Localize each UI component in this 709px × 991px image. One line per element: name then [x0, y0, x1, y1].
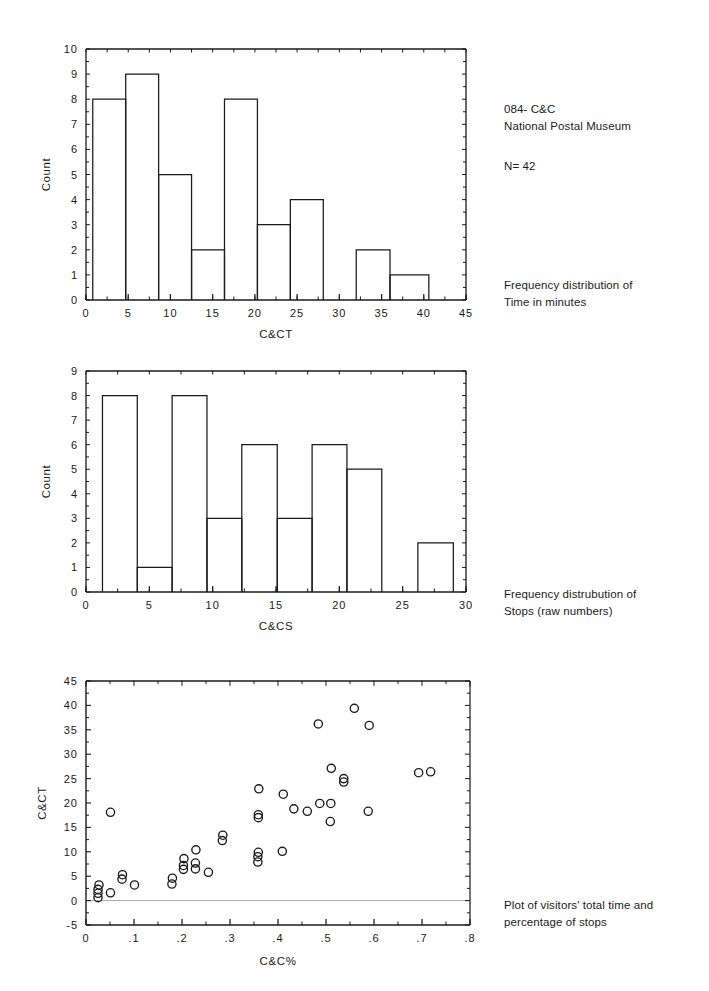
- x-tick-label: 45: [459, 307, 473, 319]
- plot-frame: [86, 49, 466, 300]
- y-tick-label: 10: [64, 846, 78, 858]
- plot-frame: [86, 371, 466, 592]
- y-tick-label: 3: [71, 512, 78, 524]
- chart-scatter-time-vs-stops: 0.1.2.3.4.5.6.7.8-5051015202530354045C&C…: [0, 660, 500, 990]
- x-tick-label: 10: [206, 599, 220, 611]
- y-tick-label: 9: [71, 68, 78, 80]
- x-tick-label: 30: [459, 599, 473, 611]
- scatter-point: [255, 785, 263, 793]
- histogram-bar: [390, 275, 429, 300]
- y-tick-label: 1: [71, 561, 78, 573]
- y-tick-label: 10: [64, 43, 78, 55]
- y-tick-label: 9: [71, 365, 78, 377]
- x-tick-label: 15: [269, 599, 283, 611]
- histogram-bar: [418, 543, 453, 592]
- x-tick-label: 5: [146, 599, 153, 611]
- scatter-point: [326, 817, 334, 825]
- scatter-point: [327, 799, 335, 807]
- histogram-bar: [290, 200, 323, 300]
- caption-histogram-stops: Frequency distrubution of Stops (raw num…: [504, 586, 636, 619]
- y-tick-label: 5: [71, 463, 78, 475]
- y-tick-label: 2: [71, 244, 78, 256]
- x-tick-label: .2: [176, 932, 187, 944]
- scatter-point: [314, 720, 322, 728]
- bars-group: [102, 396, 453, 592]
- histogram-stops-svg: 0510152025300123456789C&CSCount: [0, 352, 500, 652]
- y-tick-label: 25: [64, 773, 78, 785]
- x-tick-label: 15: [206, 307, 220, 319]
- histogram-bar: [159, 175, 192, 301]
- chart-histogram-stops: 0510152025300123456789C&CSCount: [0, 352, 500, 652]
- x-tick-label: .4: [272, 932, 283, 944]
- scatter-point: [278, 847, 286, 855]
- y-tick-label: 0: [71, 294, 78, 306]
- x-tick-label: 0: [82, 307, 89, 319]
- y-tick-label: 4: [71, 194, 78, 206]
- x-tick-label: 20: [332, 599, 346, 611]
- y-tick-label: 45: [64, 675, 78, 687]
- y-tick-label: 7: [71, 118, 78, 130]
- x-tick-label: 25: [396, 599, 410, 611]
- histogram-bar: [172, 396, 207, 592]
- y-tick-label: -5: [66, 919, 78, 931]
- x-major-ticks: [86, 586, 466, 592]
- x-tick-label: 10: [163, 307, 177, 319]
- y-axis-title: Count: [40, 464, 52, 498]
- y-tick-label: 8: [71, 390, 78, 402]
- caption-histogram-time: Frequency distribution of Time in minute…: [504, 277, 632, 310]
- minor-ticks: [86, 371, 466, 592]
- histogram-bar: [356, 250, 390, 300]
- scatter-point: [130, 881, 138, 889]
- tick-labels: 0510152025300123456789: [71, 365, 473, 611]
- scatter-point: [219, 831, 227, 839]
- histogram-bar: [242, 445, 277, 592]
- x-tick-label: .1: [128, 932, 139, 944]
- scatter-point: [303, 807, 311, 815]
- y-tick-label: 20: [64, 797, 78, 809]
- figure-page: 051015202530354045012345678910C&CTCount …: [0, 0, 709, 991]
- y-tick-label: 6: [71, 439, 78, 451]
- histogram-bar: [102, 396, 137, 592]
- y-axis-title: C&CT: [36, 786, 48, 820]
- x-tick-label: .5: [320, 932, 331, 944]
- histogram-bar: [257, 225, 290, 300]
- x-tick-label: 25: [290, 307, 304, 319]
- minor-ticks: [86, 49, 466, 300]
- plot-frame: [86, 681, 470, 925]
- scatter-svg: 0.1.2.3.4.5.6.7.8-5051015202530354045C&C…: [0, 660, 500, 990]
- x-axis-title: C&CT: [259, 328, 293, 340]
- histogram-bar: [312, 445, 347, 592]
- scatter-point: [316, 799, 324, 807]
- x-tick-label: .3: [224, 932, 235, 944]
- caption-scatter: Plot of visitors' total time and percent…: [504, 897, 653, 930]
- scatter-point: [365, 721, 373, 729]
- histogram-bar: [207, 518, 242, 592]
- y-tick-label: 35: [64, 724, 78, 736]
- x-tick-label: 5: [125, 307, 132, 319]
- y-tick-label: 30: [64, 748, 78, 760]
- x-tick-label: 30: [332, 307, 346, 319]
- x-tick-label: .8: [464, 932, 475, 944]
- y-tick-label: 0: [71, 586, 78, 598]
- scatter-point: [350, 704, 358, 712]
- y-tick-label: 0: [71, 895, 78, 907]
- scatter-point: [415, 769, 423, 777]
- histogram-bar: [126, 74, 159, 300]
- x-tick-label: .7: [416, 932, 427, 944]
- sample-size-label: N= 42: [504, 158, 536, 175]
- y-tick-label: 2: [71, 537, 78, 549]
- y-tick-label: 5: [71, 169, 78, 181]
- y-tick-label: 15: [64, 821, 78, 833]
- bars-group: [93, 74, 429, 300]
- histogram-bar: [277, 518, 312, 592]
- x-tick-label: 40: [417, 307, 431, 319]
- scatter-point: [106, 808, 114, 816]
- histogram-bar: [347, 469, 382, 592]
- scatter-point: [191, 859, 199, 867]
- x-tick-label: 0: [82, 599, 89, 611]
- x-tick-label: 20: [248, 307, 262, 319]
- y-tick-label: 4: [71, 488, 78, 500]
- scatter-point: [192, 846, 200, 854]
- histogram-bar: [137, 567, 172, 592]
- scatter-point: [168, 874, 176, 882]
